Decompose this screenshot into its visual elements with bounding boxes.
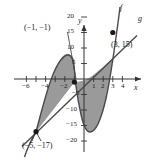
x-tick-label-1: 1 [92,83,96,90]
curve-label-f: f [120,4,122,12]
y-tick-label-neg15: −15 [66,121,77,128]
point-marker-neg5-neg17 [33,129,38,134]
curve-label-g: g [138,15,142,23]
y-axis-arrow [81,25,86,31]
point-label-3-15: (3, 15) [111,41,132,49]
y-tick-label-neg5: −5 [72,90,79,97]
y-tick-label-10: 10 [67,44,74,51]
point-marker-neg1-neg1 [72,80,77,85]
point-marker-3-15 [110,30,115,35]
x-axis-arrow [135,76,141,81]
x-tick-label-2: 2 [101,83,105,90]
graph-figure: y x f g 20 15 10 5 −5 −10 −15 −20 −6 −4 … [0,0,154,159]
x-tick-label-4: 4 [121,83,125,90]
y-tick-label-5: 5 [72,59,76,66]
y-tick-label-20: 20 [67,13,74,20]
x-tick-label-neg2: −2 [60,83,67,90]
y-tick-label-15: 15 [67,28,74,35]
point-label-neg5-neg17: (−5, −17) [22,142,52,150]
x-tick-label-neg6: −6 [22,83,29,90]
y-tick-label-neg20: −20 [66,137,77,144]
point-label-neg1-neg1: (−1, −1) [24,24,50,32]
x-tick-label-neg4: −4 [41,83,48,90]
x-axis-label: x [134,84,138,92]
y-axis-label: y [78,17,82,25]
curve-g [22,36,137,147]
x-tick-label-3: 3 [111,83,115,90]
y-tick-label-neg10: −10 [66,106,77,113]
